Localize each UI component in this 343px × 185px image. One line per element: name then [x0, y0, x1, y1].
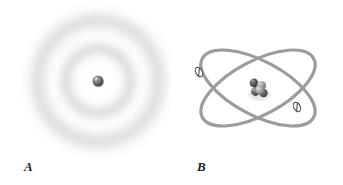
atom-models-figure: A — [0, 0, 343, 185]
panel-b-artwork — [171, 0, 343, 185]
panel-a-label: A — [24, 159, 33, 175]
panel-a: A — [0, 0, 171, 185]
electron-marker-right — [292, 101, 302, 113]
nucleon-5 — [256, 86, 264, 94]
nucleus-cluster — [249, 79, 271, 101]
panel-a-artwork — [0, 0, 171, 185]
panel-b: B — [171, 0, 343, 185]
panel-b-label: B — [197, 159, 206, 175]
